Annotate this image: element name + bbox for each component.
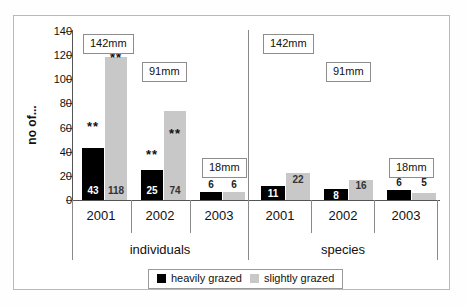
y-tick-label-140: 140: [34, 26, 72, 37]
y-tick-label-120: 120: [34, 50, 72, 61]
chart-figure: no of... 0 20 40 60 80 100 120 140 43 11…: [0, 0, 467, 307]
bar-species-2001-heavily: [261, 30, 285, 200]
value-species-2001-slightly: 22: [286, 175, 310, 185]
y-tick-label-0: 0: [34, 195, 72, 206]
value-species-2002-heavily: 8: [324, 191, 348, 201]
annotation-individuals-2001: 142mm: [83, 34, 134, 54]
value-individuals-2002-heavily: 25: [141, 186, 163, 196]
value-species-2001-heavily: 11: [261, 189, 285, 199]
value-species-2003-slightly: 5: [412, 178, 436, 188]
y-tick-label-40: 40: [34, 147, 72, 158]
bar-species-2002-slightly: [349, 30, 373, 200]
bar-individuals-2002-slightly: [164, 30, 186, 200]
annotation-species-2003: 18mm: [389, 158, 434, 178]
significance-individuals-2002-heavily: **: [141, 148, 163, 161]
legend-label-slightly: slightly grazed: [264, 273, 334, 284]
legend-swatch-icon-heavily: [157, 274, 166, 283]
significance-individuals-2001-heavily: **: [82, 120, 104, 133]
y-tick-label-100: 100: [34, 74, 72, 85]
bar-species-2002-heavily: [324, 30, 348, 200]
chart-legend: heavily grazed slightly grazed: [148, 269, 343, 289]
x-axis-line: [72, 200, 440, 201]
legend-label-heavily: heavily grazed: [171, 273, 242, 284]
bar-individuals-2001-heavily: [82, 30, 104, 200]
legend-swatch-icon-slightly: [250, 274, 259, 283]
legend-item-heavily-grazed: heavily grazed: [157, 273, 242, 284]
value-species-2002-slightly: 16: [349, 181, 373, 191]
annotation-individuals-2002: 91mm: [142, 62, 187, 82]
value-individuals-2001-heavily: 43: [82, 186, 104, 196]
annotation-individuals-2003: 18mm: [202, 158, 247, 178]
value-individuals-2002-slightly: 74: [164, 186, 186, 196]
annotation-species-2001: 142mm: [263, 34, 314, 54]
bar-individuals-2002-heavily: [141, 30, 163, 200]
y-tick-label-80: 80: [34, 98, 72, 109]
y-tick-label-20: 20: [34, 171, 72, 182]
group-label-species: species: [258, 243, 428, 256]
y-tick-label-60: 60: [34, 123, 72, 134]
annotation-species-2002: 91mm: [326, 62, 371, 82]
y-axis-line: [72, 30, 73, 201]
value-species-2003-heavily: 6: [387, 178, 411, 188]
value-individuals-2003-heavily: 6: [200, 180, 222, 190]
group-label-individuals: individuals: [75, 243, 245, 256]
significance-individuals-2002-slightly: **: [164, 127, 186, 140]
value-individuals-2003-slightly: 6: [223, 180, 245, 190]
value-individuals-2001-slightly: 118: [105, 186, 127, 196]
x-label-species-2003: 2003: [368, 209, 444, 222]
legend-item-slightly-grazed: slightly grazed: [250, 273, 334, 284]
